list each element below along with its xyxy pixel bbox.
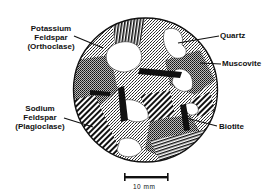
label-sodium-feldspar: Sodium Feldspar (Plagioclase) (14, 104, 66, 131)
label-quartz: Quartz (220, 31, 245, 40)
scale-bar (124, 173, 169, 181)
label-muscovite: Muscovite (222, 59, 261, 68)
label-biotite: Biotite (219, 122, 244, 131)
label-potassium-feldspar: Potassium Feldspar (Orthoclase) (25, 24, 77, 51)
thin-section-circle (70, 15, 222, 167)
scale-bar-label: 10 mm (133, 183, 155, 190)
